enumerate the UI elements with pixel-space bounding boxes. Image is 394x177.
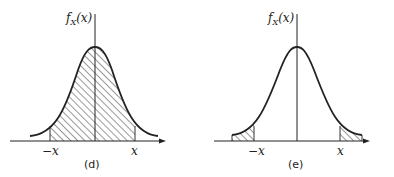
- caption-d: (d): [84, 158, 100, 171]
- tick-label-x: x: [337, 144, 344, 158]
- panel-e: fX(x) −x x (e): [214, 11, 370, 171]
- x-axis-arrow-icon: [159, 139, 166, 144]
- tick-label-neg-x: −x: [248, 144, 265, 158]
- shaded-left-tail: [232, 47, 297, 141]
- figure: fX(x) −x x (d) fX(x) −x x (e): [0, 0, 394, 177]
- caption-e: (e): [288, 158, 303, 171]
- y-axis-label: fX(x): [267, 11, 295, 27]
- panel-d: fX(x) −x x (d): [10, 11, 166, 171]
- shaded-right-tail: [297, 47, 362, 141]
- tick-label-neg-x: −x: [42, 144, 59, 158]
- tick-label-x: x: [131, 144, 138, 158]
- x-axis-arrow-icon: [363, 139, 370, 144]
- y-axis-label: fX(x): [65, 11, 93, 27]
